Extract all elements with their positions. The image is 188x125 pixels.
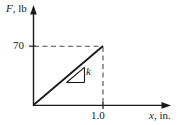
y-axis-unit: lb: [18, 2, 27, 14]
spring-force-diagram: F, lb x, in. 70 1.0 k: [0, 0, 188, 125]
y-axis-symbol: F: [6, 2, 13, 14]
slope-label-k: k: [86, 66, 91, 77]
spring-force-line: [34, 46, 104, 105]
x-axis-arrowhead: [162, 102, 172, 109]
x-tick-label-1-0: 1.0: [91, 110, 105, 121]
y-axis-arrowhead: [30, 5, 37, 15]
figure-canvas: [0, 0, 188, 125]
y-axis-separator: ,: [13, 2, 16, 14]
y-tick-label-70: 70: [13, 40, 24, 51]
y-axis-label: F, lb: [6, 3, 27, 14]
x-axis: [33, 102, 171, 109]
y-axis: [30, 5, 37, 106]
x-axis-label: x, in.: [149, 110, 171, 121]
x-axis-separator: ,: [154, 109, 157, 121]
x-axis-unit: in.: [159, 109, 170, 121]
